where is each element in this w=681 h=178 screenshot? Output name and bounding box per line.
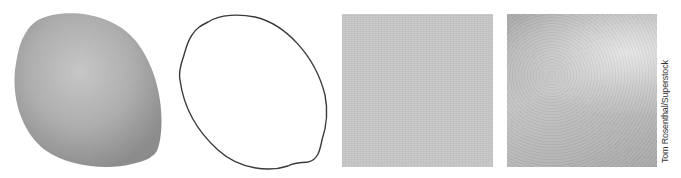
lemon-outline-drawing bbox=[170, 0, 340, 178]
lemon-photograph bbox=[0, 0, 170, 178]
lemon-outline-icon bbox=[170, 0, 340, 178]
photo-credit: Tom Rosenthal/Superstock bbox=[660, 60, 670, 163]
lemon-image-icon bbox=[0, 0, 170, 178]
rough-texture-swatch bbox=[507, 14, 657, 167]
smooth-texture-swatch bbox=[342, 14, 493, 167]
